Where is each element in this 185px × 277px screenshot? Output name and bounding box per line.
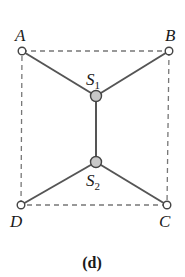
edge-B-C <box>167 51 169 205</box>
node-D <box>17 201 25 209</box>
label-B: B <box>165 26 176 45</box>
label-A: A <box>14 26 26 45</box>
edge-D-A <box>21 51 22 205</box>
steiner-tree-diagram: A B D C S1 S2 (d) <box>0 0 185 277</box>
edge-S2-C <box>96 162 167 205</box>
label-D: D <box>9 212 23 231</box>
node-C <box>163 201 171 209</box>
label-S1: S1 <box>86 70 100 91</box>
edge-B-S1 <box>96 51 169 96</box>
node-S1 <box>91 91 102 102</box>
node-B <box>165 47 173 55</box>
label-C: C <box>159 212 171 231</box>
node-A <box>18 47 26 55</box>
edge-A-S1 <box>22 51 96 96</box>
label-S2: S2 <box>86 171 100 192</box>
figure-caption: (d) <box>82 254 102 272</box>
edge-S2-D <box>21 162 96 205</box>
node-S2 <box>91 157 102 168</box>
